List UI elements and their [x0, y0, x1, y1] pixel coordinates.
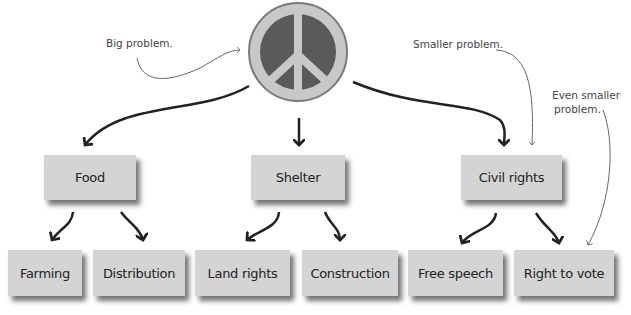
annotation-arrow-big — [137, 50, 240, 78]
arrow-shelter-construction — [325, 212, 340, 240]
arrow-civil-speech — [462, 213, 496, 243]
node-label: Shelter — [276, 170, 320, 185]
annotation-arrow-even-smaller — [588, 110, 610, 245]
node-distribution: Distribution — [93, 250, 185, 296]
peace-sign-icon — [249, 3, 347, 101]
annotation-even-smaller-line2: problem. — [554, 102, 601, 116]
node-food: Food — [44, 155, 136, 200]
arrow-food-distribution — [121, 212, 143, 240]
arrow-civil-vote — [536, 213, 559, 243]
node-label: Free speech — [418, 266, 493, 281]
node-shelter: Shelter — [251, 155, 345, 200]
arrow-shelter-land — [247, 212, 279, 240]
node-label: Farming — [20, 266, 70, 281]
node-right-to-vote: Right to vote — [514, 250, 614, 296]
annotation-arrow-smaller — [496, 50, 533, 145]
node-civil-rights: Civil rights — [461, 155, 562, 200]
node-label: Right to vote — [524, 266, 604, 281]
annotation-even-smaller-line1: Even smaller — [552, 88, 620, 102]
node-label: Food — [75, 170, 105, 185]
node-label: Distribution — [103, 266, 175, 281]
annotation-smaller-problem: Smaller problem. — [413, 37, 503, 51]
annotation-big-problem: Big problem. — [106, 36, 173, 50]
node-free-speech: Free speech — [408, 250, 503, 296]
node-construction: Construction — [302, 250, 398, 296]
arrow-food-farming — [52, 212, 73, 240]
arrow-root-food — [85, 86, 249, 145]
node-farming: Farming — [8, 250, 82, 296]
node-label: Civil rights — [479, 170, 544, 185]
node-land-rights: Land rights — [195, 250, 290, 296]
arrow-root-civil — [353, 82, 505, 145]
node-label: Construction — [310, 266, 389, 281]
node-label: Land rights — [208, 266, 278, 281]
